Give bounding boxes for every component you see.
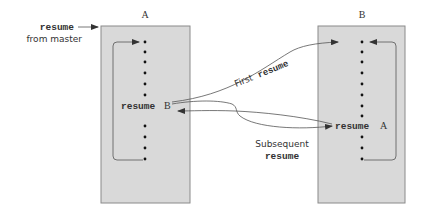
coroutine-b-title: B [359,9,366,20]
entry-from-master-label: from master [26,34,82,44]
first-resume-label: First resume [233,58,290,90]
box-a-resume-keyword: resume [121,101,156,112]
subsequent-resume-arrow [172,101,332,128]
subsequent-label-keyword: resume [265,151,300,162]
first-resume-arrow [172,42,338,102]
box-b-resume-target: A [380,120,388,131]
return-resume-arrow [178,111,332,124]
first-label-text: First [233,72,255,89]
box-a-resume-target: B [164,100,171,111]
box-b-resume-keyword: resume [335,121,370,132]
entry-resume-keyword: resume [40,22,75,33]
coroutine-diagram: A B resume from master resume B resume [0,0,425,211]
subsequent-label-text: Subsequent [255,139,309,149]
coroutine-a-title: A [141,9,149,20]
